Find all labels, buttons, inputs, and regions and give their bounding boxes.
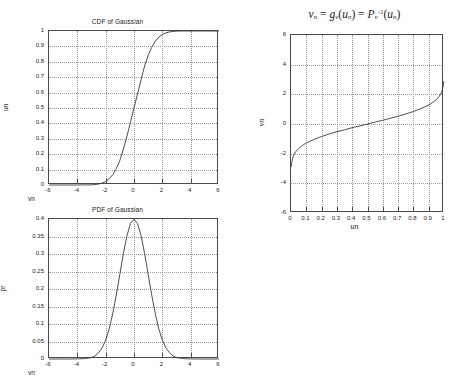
inverse-cdf-curve [291, 81, 443, 166]
x-tick-label: 0.8 [408, 215, 416, 221]
axis-tick [383, 207, 384, 211]
pdf-chart-panel: PDF of Gaussian -6 -4 -2 0 2 4 6 0 0.05 … [0, 206, 235, 386]
y-tick-label: 0.25 [20, 268, 44, 274]
x-tick-label: 0.3 [332, 215, 340, 221]
x-tick-label: 4 [188, 361, 191, 367]
x-tick-label: -2 [102, 187, 107, 193]
y-tick-label: 0.05 [20, 338, 44, 344]
axis-tick [429, 207, 430, 211]
y-tick-label: 0.35 [20, 233, 44, 239]
axis-tick [306, 207, 307, 211]
y-tick-label: 0.3 [24, 135, 44, 141]
pdf-curve [49, 219, 219, 359]
x-tick-label: 4 [188, 187, 191, 193]
x-tick-label: 0.6 [378, 215, 386, 221]
x-tick-label: 2 [160, 361, 163, 367]
x-tick-label: 0.4 [347, 215, 355, 221]
axis-tick [77, 353, 78, 357]
pdf-y-axis-title: pr [0, 286, 6, 292]
axis-tick [352, 207, 353, 211]
x-tick-label: -4 [74, 361, 79, 367]
inverse-cdf-chart-panel: vn = gv(un) = Pv-1(un) 0 0.1 0.2 0.3 0.4… [240, 0, 469, 240]
axis-tick [162, 353, 163, 357]
axis-tick [191, 353, 192, 357]
x-tick-label: 0.9 [424, 215, 432, 221]
axis-tick [106, 353, 107, 357]
x-tick-label: 0.2 [316, 215, 324, 221]
axis-tick [162, 179, 163, 183]
x-tick-label: 0.7 [393, 215, 401, 221]
pdf-x-axis-title: vn [0, 369, 149, 376]
y-tick-label: 0.1 [24, 166, 44, 172]
y-tick-label: 0.2 [24, 150, 44, 156]
cdf-y-axis-title: un [2, 104, 9, 111]
x-tick-label: 0.1 [301, 215, 309, 221]
axis-tick [322, 207, 323, 211]
inverse-cdf-x-axis-title: un [240, 222, 469, 231]
x-tick-label: 0 [288, 215, 291, 221]
cdf-chart-title: CDF of Gaussian [0, 18, 235, 25]
y-tick-label: 0.5 [24, 104, 44, 110]
axis-tick [191, 179, 192, 183]
x-axis-var: un [351, 222, 359, 231]
x-tick-label: -4 [74, 187, 79, 193]
y-tick-label: 0.4 [20, 215, 44, 221]
x-tick-label: 1 [441, 215, 444, 221]
x-tick-label: 0 [131, 361, 134, 367]
y-tick-label: 0 [268, 120, 286, 126]
axis-tick [77, 179, 78, 183]
inverse-cdf-y-axis-title: vn [257, 119, 266, 127]
pdf-plot-area [48, 218, 218, 358]
pdf-curve-svg [49, 219, 219, 359]
equation-P: P [367, 8, 374, 20]
cdf-x-axis-title: vn [0, 195, 149, 202]
axis-tick [106, 179, 107, 183]
cdf-plot-area [48, 30, 218, 184]
y-tick-label: 0.3 [20, 250, 44, 256]
y-axis-var: vn [257, 119, 266, 127]
x-tick-label: -2 [102, 361, 107, 367]
axis-tick [134, 179, 135, 183]
y-tick-label: 0.2 [20, 285, 44, 291]
y-tick-label: -4 [268, 179, 286, 185]
axis-tick [337, 207, 338, 211]
figure-page: { "figure": { "equation": { "lhs": "v", … [0, 0, 469, 386]
y-tick-label: 0.15 [20, 303, 44, 309]
inverse-cdf-equation: vn = gv(un) = Pv-1(un) [240, 8, 469, 21]
x-tick-label: 2 [160, 187, 163, 193]
axis-tick [368, 207, 369, 211]
cdf-chart-panel: CDF of Gaussian -6 -4 -2 0 2 4 6 0 0.1 0… [0, 18, 235, 208]
y-tick-label: 0 [24, 181, 44, 187]
y-tick-label: 1 [24, 27, 44, 33]
x-tick-label: 0 [131, 187, 134, 193]
y-tick-label: 0.4 [24, 119, 44, 125]
y-tick-label: 0.1 [20, 320, 44, 326]
equation-paren-close-2: ) [397, 8, 401, 20]
axis-tick [398, 207, 399, 211]
x-tick-label: -6 [45, 187, 50, 193]
axis-tick [134, 353, 135, 357]
cdf-curve-svg [49, 31, 219, 185]
y-tick-label: 0 [20, 355, 44, 361]
cdf-curve [49, 31, 219, 185]
y-tick-label: 2 [268, 90, 286, 96]
inverse-cdf-plot-area [290, 34, 443, 212]
y-tick-label: 0.7 [24, 73, 44, 79]
y-tick-label: 0.8 [24, 58, 44, 64]
axis-tick [413, 207, 414, 211]
pdf-chart-title: PDF of Gaussian [0, 206, 235, 213]
x-tick-label: -6 [45, 361, 50, 367]
y-tick-label: 0.9 [24, 42, 44, 48]
y-tick-label: -6 [268, 209, 286, 215]
y-tick-label: 6 [268, 31, 286, 37]
y-tick-label: 4 [268, 61, 286, 67]
y-tick-label: -2 [268, 150, 286, 156]
x-tick-label: 6 [216, 187, 219, 193]
inverse-cdf-curve-svg [291, 35, 444, 213]
equation-equals-2: = [355, 8, 367, 20]
y-tick-label: 0.6 [24, 89, 44, 95]
x-tick-label: 6 [216, 361, 219, 367]
equation-equals-1: = [317, 8, 329, 20]
x-tick-label: 0.5 [362, 215, 370, 221]
